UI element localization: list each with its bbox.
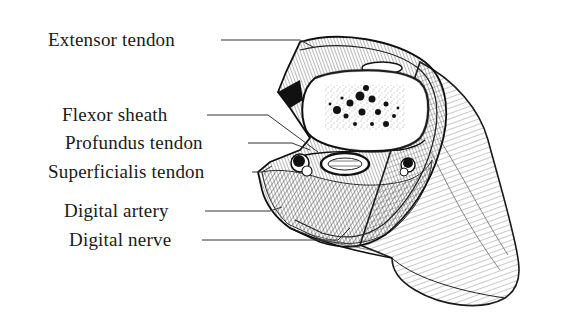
label-superficialis-tendon: Superficialis tendon (48, 162, 205, 181)
label-digital-nerve: Digital nerve (69, 230, 171, 249)
phalanx-bone (302, 70, 428, 151)
anatomy-diagram: Extensor tendon Flexor sheath Profundus … (0, 0, 572, 328)
label-digital-artery: Digital artery (64, 201, 169, 220)
label-profundus-tendon: Profundus tendon (65, 133, 203, 152)
label-extensor-tendon: Extensor tendon (48, 30, 175, 49)
label-flexor-sheath: Flexor sheath (62, 105, 168, 124)
flexor-tendons-structure (321, 153, 369, 175)
